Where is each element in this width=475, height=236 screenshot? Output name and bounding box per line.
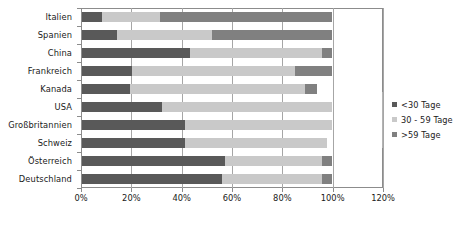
x-axis-label: 80% <box>273 193 291 203</box>
bar-row <box>82 102 382 112</box>
y-axis-tick <box>77 152 81 153</box>
bar-row <box>82 84 382 94</box>
x-axis-label: 0% <box>74 193 87 203</box>
bar-segment <box>322 48 332 58</box>
x-axis-tick <box>232 188 233 192</box>
legend-label: <30 Tage <box>401 100 441 110</box>
y-axis-tick <box>77 8 81 9</box>
x-axis-tick <box>182 188 183 192</box>
legend-swatch-icon <box>392 102 397 107</box>
x-axis-label: 100% <box>321 193 345 203</box>
bar-segment <box>322 174 332 184</box>
bar-segment <box>295 66 333 76</box>
bar-segment <box>82 12 102 22</box>
bar-segment <box>225 156 323 166</box>
category-label: Frankreich <box>0 66 76 76</box>
x-axis-tick <box>81 188 82 192</box>
bar-row <box>82 174 382 184</box>
x-axis-label: 60% <box>223 193 241 203</box>
bar-segment <box>82 66 132 76</box>
bar-segment <box>82 84 130 94</box>
category-label: Österreich <box>0 156 76 166</box>
bar-segment <box>222 174 322 184</box>
bar-segment <box>117 30 212 40</box>
legend-item[interactable]: 30 - 59 Tage <box>392 112 472 127</box>
bar-row <box>82 30 382 40</box>
bar-segment <box>82 138 185 148</box>
bar-row <box>82 156 382 166</box>
bar-segment <box>212 30 332 40</box>
bar-segment <box>162 102 332 112</box>
bar-segment <box>102 12 160 22</box>
x-axis-tick <box>333 188 334 192</box>
x-axis-tick <box>282 188 283 192</box>
bar-row <box>82 138 382 148</box>
bar-row <box>82 12 382 22</box>
x-axis-tick <box>131 188 132 192</box>
y-axis-tick <box>77 80 81 81</box>
value-axis-labels: 0%20%40%60%80%100%120% <box>81 193 383 207</box>
category-label: Italien <box>0 12 76 22</box>
y-axis-tick <box>77 188 81 189</box>
y-axis-tick <box>77 170 81 171</box>
bar-segment <box>130 84 305 94</box>
category-label: China <box>0 48 76 58</box>
bar-series-group <box>82 8 382 188</box>
y-axis-tick <box>77 26 81 27</box>
bar-segment <box>185 138 328 148</box>
category-label: USA <box>0 102 76 112</box>
bar-row <box>82 48 382 58</box>
legend-swatch-icon <box>392 117 397 122</box>
y-axis-tick <box>77 98 81 99</box>
legend-divider <box>382 92 383 148</box>
y-axis-tick <box>77 62 81 63</box>
y-axis-tick <box>77 116 81 117</box>
y-axis-tick <box>77 134 81 135</box>
bar-segment <box>160 12 333 22</box>
bar-segment <box>82 120 185 130</box>
bar-segment <box>82 174 222 184</box>
plot-area <box>81 8 383 188</box>
bar-row <box>82 66 382 76</box>
x-axis-label: 40% <box>172 193 190 203</box>
bar-segment <box>305 84 318 94</box>
category-label: Spanien <box>0 30 76 40</box>
bar-segment <box>82 156 225 166</box>
bar-segment <box>185 120 333 130</box>
bar-segment <box>190 48 323 58</box>
legend-item[interactable]: <30 Tage <box>392 97 472 112</box>
category-label: Großbritannien <box>0 120 76 130</box>
bar-segment <box>82 48 190 58</box>
x-axis-label: 120% <box>371 193 395 203</box>
x-axis-label: 20% <box>122 193 140 203</box>
legend-item[interactable]: >59 Tage <box>392 127 472 142</box>
category-label: Schweiz <box>0 138 76 148</box>
category-label: Kanada <box>0 84 76 94</box>
legend-label: 30 - 59 Tage <box>401 115 453 125</box>
bar-segment <box>82 30 117 40</box>
x-axis-tick <box>383 188 384 192</box>
legend-swatch-icon <box>392 132 397 137</box>
bar-row <box>82 120 382 130</box>
chart-legend: <30 Tage30 - 59 Tage>59 Tage <box>392 97 472 142</box>
bar-segment <box>82 102 162 112</box>
category-axis-labels: ItalienSpanienChinaFrankreichKanadaUSAGr… <box>0 8 76 188</box>
y-axis-tick <box>77 44 81 45</box>
bar-segment <box>322 156 332 166</box>
gridline <box>383 8 384 188</box>
legend-label: >59 Tage <box>401 130 441 140</box>
stacked-bar-chart: ItalienSpanienChinaFrankreichKanadaUSAGr… <box>0 0 475 236</box>
bar-segment <box>132 66 295 76</box>
category-label: Deutschland <box>0 174 76 184</box>
